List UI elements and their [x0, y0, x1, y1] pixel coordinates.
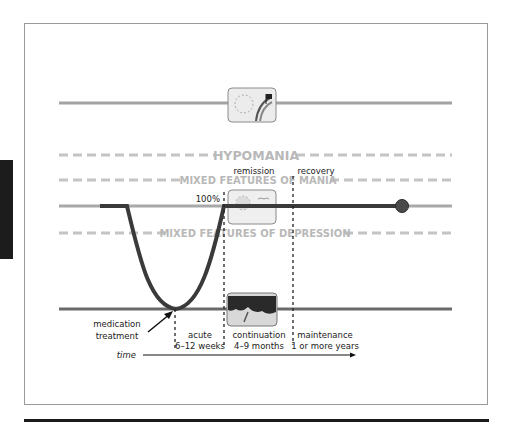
mixed-depression-label: MIXED FEATURES OF DEPRESSION: [159, 228, 350, 239]
time-axis-label: time: [117, 350, 136, 360]
phase-acute-name: acute: [188, 330, 212, 340]
treatment-phases-diagram: HYPOMANIA MIXED FEATURES OF MANIA MIXED …: [0, 0, 505, 432]
remission-label: remission: [234, 166, 275, 176]
mixed-mania-label: MIXED FEATURES OF MANIA: [179, 175, 336, 186]
hundred-percent-label: 100%: [196, 194, 220, 204]
mania-icon: [228, 88, 276, 122]
time-axis-arrow: [143, 353, 356, 358]
annotation-line1: medication: [93, 319, 140, 329]
hypomania-label: HYPOMANIA: [213, 148, 300, 163]
annotation-arrow: [148, 311, 173, 332]
recovery-endpoint: [396, 200, 409, 213]
phase-continuation-duration: 4–9 months: [234, 341, 284, 351]
recovery-label: recovery: [297, 166, 334, 176]
phase-continuation-name: continuation: [232, 330, 285, 340]
phase-maintenance-name: maintenance: [297, 330, 353, 340]
phase-acute-duration: 6–12 weeks: [175, 341, 226, 351]
phase-maintenance-duration: 1 or more years: [291, 341, 359, 351]
depression-icon: [227, 293, 277, 326]
annotation-line2: treatment: [96, 331, 139, 341]
